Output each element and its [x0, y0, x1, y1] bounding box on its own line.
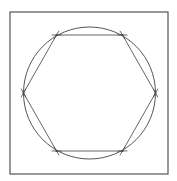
vertex-point-5 [23, 92, 25, 94]
vertex-point-3 [122, 150, 124, 152]
vertex-point-0 [56, 34, 58, 36]
hexagon-construction-diagram [0, 0, 177, 181]
vertex-point-1 [122, 34, 124, 36]
vertex-point-4 [56, 150, 58, 152]
vertex-point-2 [155, 92, 157, 94]
